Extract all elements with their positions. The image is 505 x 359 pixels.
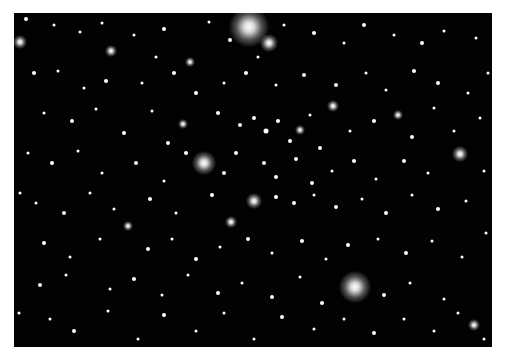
- bright-star: [260, 34, 278, 52]
- star: [175, 212, 178, 215]
- star: [104, 79, 108, 83]
- bright-star: [185, 57, 195, 67]
- star: [485, 232, 488, 235]
- star-field-image: [14, 13, 492, 347]
- star: [148, 197, 152, 201]
- star: [216, 291, 220, 295]
- star: [262, 161, 266, 165]
- star: [410, 135, 414, 139]
- bright-star: [178, 119, 188, 129]
- star: [151, 110, 154, 113]
- star: [343, 318, 346, 321]
- star: [309, 114, 312, 117]
- star: [70, 119, 74, 123]
- star: [475, 37, 478, 40]
- star: [146, 247, 150, 251]
- star: [113, 208, 116, 211]
- star: [404, 251, 408, 255]
- star: [99, 238, 102, 241]
- star: [487, 72, 490, 75]
- star: [109, 288, 112, 291]
- star: [365, 72, 368, 75]
- star: [443, 298, 446, 301]
- star: [155, 56, 158, 59]
- star: [195, 330, 198, 333]
- star: [420, 41, 424, 45]
- star: [334, 83, 338, 87]
- star: [372, 331, 376, 335]
- star: [312, 31, 316, 35]
- star: [163, 180, 166, 183]
- star: [276, 119, 280, 123]
- bright-star: [192, 151, 216, 175]
- star: [310, 181, 314, 185]
- star: [362, 23, 366, 27]
- star: [35, 202, 38, 205]
- star: [375, 178, 378, 181]
- star: [384, 211, 388, 215]
- star: [65, 274, 68, 277]
- star: [299, 276, 302, 279]
- star: [122, 131, 126, 135]
- bright-star: [105, 45, 117, 57]
- star: [288, 139, 292, 143]
- star: [107, 310, 110, 313]
- star: [431, 240, 434, 243]
- star: [244, 71, 248, 75]
- star: [19, 192, 22, 195]
- star: [453, 130, 456, 133]
- star: [223, 312, 226, 315]
- star: [283, 24, 286, 27]
- star: [50, 161, 54, 165]
- star: [210, 193, 214, 197]
- star: [461, 256, 464, 259]
- star: [320, 301, 324, 305]
- star: [208, 21, 211, 24]
- star: [32, 71, 36, 75]
- star: [393, 34, 396, 37]
- star: [166, 141, 170, 145]
- star: [270, 295, 274, 299]
- star: [274, 195, 278, 199]
- bright-star: [295, 125, 305, 135]
- star: [457, 312, 460, 315]
- star: [372, 119, 376, 123]
- bright-star: [14, 35, 27, 49]
- star: [194, 91, 198, 95]
- bright-star: [123, 221, 133, 231]
- star: [141, 82, 144, 85]
- bright-star: [393, 110, 403, 120]
- bright-star: [225, 216, 237, 228]
- star: [187, 274, 190, 277]
- star: [409, 282, 412, 285]
- star: [313, 328, 316, 331]
- star: [49, 318, 52, 321]
- star: [171, 238, 174, 241]
- star: [436, 207, 440, 211]
- star: [412, 69, 416, 73]
- star: [194, 257, 198, 261]
- star: [300, 239, 304, 243]
- star: [228, 38, 232, 42]
- star: [134, 161, 138, 165]
- star: [465, 200, 468, 203]
- star: [318, 146, 322, 150]
- star: [219, 246, 222, 249]
- star: [352, 159, 356, 163]
- star: [184, 151, 188, 155]
- star: [161, 294, 164, 297]
- star: [246, 237, 250, 241]
- star: [467, 92, 470, 95]
- star: [222, 171, 226, 175]
- star: [292, 201, 296, 205]
- star: [280, 315, 284, 319]
- star: [137, 338, 140, 341]
- star: [402, 159, 406, 163]
- star: [132, 277, 136, 281]
- star: [53, 24, 56, 27]
- star: [433, 107, 436, 110]
- star: [275, 84, 278, 87]
- star: [331, 170, 334, 173]
- star: [313, 194, 316, 197]
- star: [216, 111, 220, 115]
